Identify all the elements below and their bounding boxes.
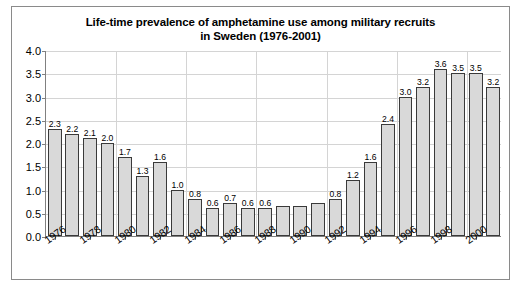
bar — [486, 87, 500, 236]
bar-value-label: 2.1 — [84, 128, 96, 138]
chart-title-line-2: in Sweden (1976-2001) — [12, 29, 509, 43]
x-axis-labels: 1976197819801982198419861988199019921994… — [45, 236, 500, 282]
y-axis-tick-mark — [42, 51, 46, 52]
plot-area: 0.00.51.01.52.02.53.03.54.0 2.32.22.12.0… — [45, 51, 501, 237]
bar-value-label: 3.2 — [487, 77, 499, 87]
bar — [399, 97, 413, 237]
bar — [48, 129, 62, 236]
bar-value-label: 2.0 — [101, 133, 113, 143]
y-axis-tick-label: 2.0 — [26, 138, 41, 150]
bar — [451, 73, 465, 236]
gridline-vertical — [397, 51, 398, 236]
bar-value-label: 0.8 — [329, 189, 341, 199]
bar-value-label: 0.6 — [207, 198, 219, 208]
chart-title: Life-time prevalence of amphetamine use … — [12, 15, 509, 43]
bar-value-label: 2.3 — [49, 119, 61, 129]
bar-value-label: 3.5 — [470, 63, 482, 73]
bar-value-label: 3.5 — [452, 63, 464, 73]
bar — [65, 134, 79, 236]
y-axis-tick-mark — [42, 191, 46, 192]
y-axis-tick-label: 4.0 — [26, 45, 41, 57]
chart-title-line-1: Life-time prevalence of amphetamine use … — [12, 15, 509, 29]
bar — [101, 143, 115, 236]
bar-value-label: 3.2 — [417, 77, 429, 87]
y-axis-tick-label: 2.5 — [26, 115, 41, 127]
bar-value-label: 1.0 — [172, 180, 184, 190]
bar-value-label: 2.4 — [382, 114, 394, 124]
y-axis-tick-label: 1.0 — [26, 185, 41, 197]
y-axis-tick-mark — [42, 144, 46, 145]
gridline — [46, 191, 501, 192]
bar — [381, 124, 395, 236]
gridline — [46, 214, 501, 215]
bar-value-label: 3.6 — [435, 59, 447, 69]
bar-value-label: 1.6 — [364, 152, 376, 162]
bar — [171, 190, 185, 237]
chart-frame: Life-time prevalence of amphetamine use … — [11, 6, 510, 280]
gridline-vertical — [186, 51, 187, 236]
y-axis-tick-mark — [42, 121, 46, 122]
gridline — [46, 51, 501, 52]
bar-value-label: 2.2 — [66, 124, 78, 134]
bar-value-label: 0.6 — [259, 198, 271, 208]
y-axis-tick-label: 0.5 — [26, 208, 41, 220]
y-axis-tick-mark — [42, 98, 46, 99]
y-axis-tick-label: 1.5 — [26, 161, 41, 173]
gridline-vertical — [467, 51, 468, 236]
gridline — [46, 144, 501, 145]
bar-value-label: 0.7 — [224, 193, 236, 203]
bar-value-label: 1.3 — [136, 166, 148, 176]
gridline — [46, 167, 501, 168]
bar — [346, 180, 360, 236]
gridline — [46, 121, 501, 122]
bar-value-label: 0.8 — [189, 189, 201, 199]
bar — [416, 87, 430, 236]
y-axis-tick-label: 0.0 — [26, 231, 41, 243]
gridline — [46, 74, 501, 75]
bar-value-label: 1.6 — [154, 152, 166, 162]
y-axis-tick-mark — [42, 214, 46, 215]
bar-value-label: 0.6 — [242, 198, 254, 208]
gridline-vertical — [256, 51, 257, 236]
bar-value-label: 3.0 — [400, 87, 412, 97]
y-axis-tick-label: 3.5 — [26, 68, 41, 80]
y-axis-tick-label: 3.0 — [26, 92, 41, 104]
bar — [434, 69, 448, 236]
gridline — [46, 98, 501, 99]
gridline-vertical — [116, 51, 117, 236]
y-axis-tick-mark — [42, 74, 46, 75]
y-axis-tick-mark — [42, 167, 46, 168]
bar-value-label: 1.2 — [347, 170, 359, 180]
bar — [136, 176, 150, 236]
bar — [83, 138, 97, 236]
bar-value-label: 1.7 — [119, 147, 131, 157]
bar — [311, 203, 325, 236]
bar — [469, 73, 483, 236]
gridline-vertical — [327, 51, 328, 236]
